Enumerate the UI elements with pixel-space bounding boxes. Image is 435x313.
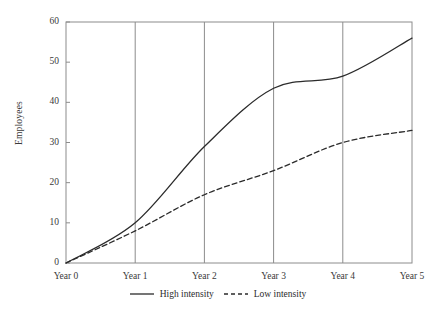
y-tick-label: 60	[35, 17, 59, 27]
series-line-1	[66, 38, 412, 263]
plot-frame	[66, 22, 412, 263]
chart-figure: Employees 0102030405060 Year 0Year 1Year…	[0, 0, 435, 313]
plot-border	[66, 22, 412, 263]
y-axis-title: Employees	[14, 78, 24, 168]
y-tick-label: 10	[35, 218, 59, 228]
chart-legend: High intensityLow intensity	[0, 289, 435, 299]
x-tick-label: Year 2	[174, 272, 234, 282]
legend-item-1: High intensity	[129, 289, 214, 299]
gridlines	[135, 22, 343, 263]
x-tick-label: Year 0	[36, 272, 96, 282]
x-tick-label: Year 3	[244, 272, 304, 282]
x-tick-label: Year 1	[105, 272, 165, 282]
y-tick-label: 20	[35, 178, 59, 188]
solid-line-icon	[129, 290, 155, 298]
y-tick-label: 50	[35, 57, 59, 67]
y-tick-label: 0	[35, 258, 59, 268]
data-series	[66, 38, 412, 263]
y-axis-ticks	[66, 22, 70, 263]
series-line-2	[66, 130, 412, 263]
y-tick-label: 30	[35, 138, 59, 148]
y-tick-label: 40	[35, 97, 59, 107]
legend-item-2: Low intensity	[223, 289, 307, 299]
x-tick-label: Year 4	[313, 272, 373, 282]
legend-label: Low intensity	[254, 289, 307, 299]
dashed-line-icon	[223, 290, 249, 298]
chart-canvas	[0, 0, 435, 313]
x-tick-label: Year 5	[382, 272, 435, 282]
legend-label: High intensity	[160, 289, 214, 299]
